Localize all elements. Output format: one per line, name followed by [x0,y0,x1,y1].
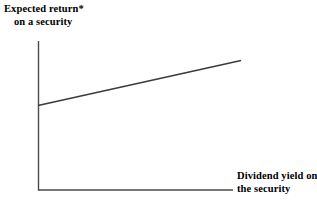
x-axis-label: Dividend yield on the security [237,170,317,195]
x-axis-label-line2: the security [237,183,317,196]
x-axis-label-line1: Dividend yield on [237,170,317,181]
expected-return-line [38,61,241,106]
chart-figure: Expected return* on a security Dividend … [0,0,317,208]
